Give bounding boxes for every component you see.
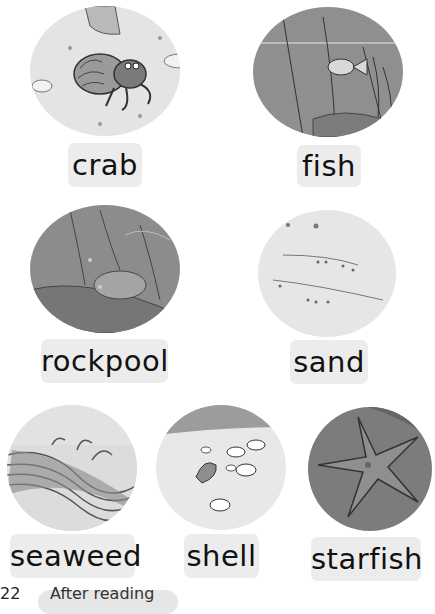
- crab-icon: [30, 6, 180, 136]
- fish-illustration: [253, 7, 403, 137]
- section-label: After reading: [50, 584, 154, 603]
- word-label-shell: shell: [184, 534, 259, 578]
- word-label-seaweed: seaweed: [10, 534, 135, 578]
- word-label-fish: fish: [297, 145, 361, 187]
- seaweed-icon: [7, 405, 137, 531]
- crab-illustration: [30, 6, 180, 136]
- word-label-rockpool: rockpool: [41, 339, 168, 383]
- starfish-illustration: [308, 407, 432, 531]
- sand-icon: [258, 210, 396, 337]
- rockpool-illustration: [30, 205, 180, 333]
- rockpool-icon: [30, 205, 180, 333]
- word-label-sand: sand: [290, 340, 368, 384]
- seaweed-illustration: [7, 405, 137, 531]
- page-number: 22: [0, 584, 20, 603]
- word-label-crab: crab: [68, 143, 142, 187]
- shell-illustration: [156, 405, 286, 530]
- starfish-icon: [308, 407, 432, 531]
- fish-icon: [253, 7, 403, 137]
- word-label-starfish: starfish: [311, 537, 421, 581]
- sand-illustration: [258, 210, 396, 337]
- page-footer: 22 After reading: [0, 590, 170, 610]
- shell-icon: [156, 405, 286, 530]
